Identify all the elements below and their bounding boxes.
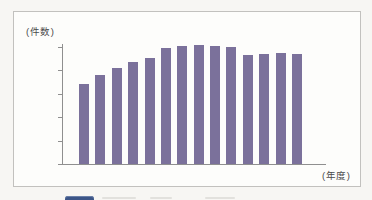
bar-2022 <box>276 53 286 164</box>
bar-2015 <box>161 48 171 164</box>
bar-2020 <box>243 55 253 164</box>
legend-swatch-cutoff <box>65 196 94 200</box>
y-tick-mark <box>58 47 62 48</box>
bar-2021 <box>259 54 269 164</box>
y-axis-unit-label: (件数) <box>26 24 54 38</box>
bar-2014 <box>145 58 155 164</box>
legend-text-cutoff <box>102 197 136 199</box>
bar-2019 <box>226 47 236 164</box>
y-tick-mark <box>58 70 62 71</box>
legend-text-cutoff <box>150 197 172 199</box>
y-axis <box>62 44 63 165</box>
bar-2016 <box>177 46 187 164</box>
bar-2012 <box>112 68 122 164</box>
bar-2010 <box>79 84 89 164</box>
legend-text-cutoff <box>205 197 235 199</box>
bar-2023 <box>292 54 302 164</box>
x-axis-unit-label: (年度) <box>322 168 350 182</box>
bar-2013 <box>128 62 138 164</box>
bar-2011 <box>95 75 105 164</box>
y-tick-mark <box>58 141 62 142</box>
bar-2018 <box>210 46 220 164</box>
y-tick-mark <box>58 117 62 118</box>
bar-2017 <box>194 45 204 164</box>
scanned-chart-page: { "chart_data": { "type": "bar", "title"… <box>0 0 372 200</box>
y-tick-mark <box>58 164 62 165</box>
x-axis <box>62 164 326 165</box>
y-tick-mark <box>58 94 62 95</box>
